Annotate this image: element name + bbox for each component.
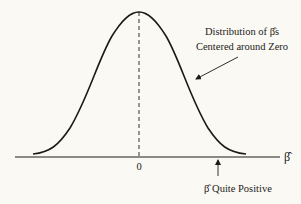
distribution-label-line2: Centered around Zero bbox=[196, 41, 288, 52]
quite-positive-label: β̂ Quite Positive bbox=[204, 183, 272, 194]
diagram-canvas: 0 β̂ Distribution of β̂s Centered around… bbox=[0, 0, 301, 204]
axis-label-beta-hat: β̂ bbox=[284, 150, 292, 164]
distribution-label-line1: Distribution of β̂s bbox=[205, 26, 279, 37]
zero-tick-label: 0 bbox=[136, 161, 141, 172]
distribution-arrow-icon bbox=[196, 57, 238, 79]
